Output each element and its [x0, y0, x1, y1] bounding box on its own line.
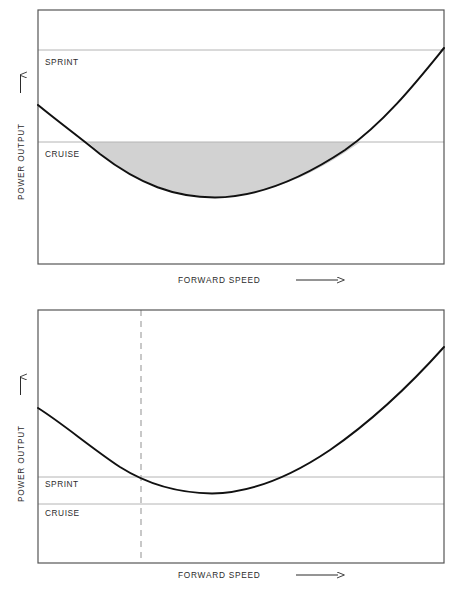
sprint-label: SPRINT — [45, 479, 79, 489]
x-axis-label: FORWARD SPEED — [178, 570, 261, 580]
y-axis-label: POWER OUTPUT — [16, 123, 26, 200]
cruise-label: CRUISE — [45, 508, 80, 518]
power-curve — [38, 347, 444, 494]
y-axis-label: POWER OUTPUT — [16, 425, 26, 502]
cruise-label: CRUISE — [45, 149, 80, 159]
sprint-label: SPRINT — [45, 57, 79, 67]
chart-top: SPRINT CRUISE POWER OUTPUT FORWARD SPEED — [0, 0, 464, 295]
plot-frame — [38, 10, 444, 264]
plot-frame — [38, 310, 444, 563]
shaded-region — [88, 142, 361, 198]
x-axis-label: FORWARD SPEED — [178, 275, 261, 285]
chart-bottom: SPRINT CRUISE POWER OUTPUT FORWARD SPEED — [0, 295, 464, 590]
